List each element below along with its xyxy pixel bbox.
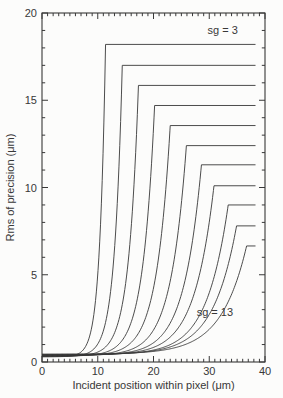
plot-area: 01020304005101520sg = 3sg = 13 [25, 7, 271, 377]
x-axis-title: Incident position within pixel (μm) [72, 379, 234, 391]
curve-sg-12 [42, 226, 256, 355]
curve-sg-6 [42, 105, 256, 356]
x-tick-label: 40 [259, 365, 271, 377]
curve-sg-9 [42, 165, 256, 355]
y-tick-label: 20 [25, 7, 37, 19]
x-tick-label: 10 [92, 365, 104, 377]
y-tick-label: 0 [31, 356, 37, 368]
curve-sg-10 [42, 186, 256, 355]
curve-sg-7 [42, 126, 256, 356]
y-tick-label: 5 [31, 269, 37, 281]
annotation-sg-13: sg = 13 [197, 306, 233, 318]
x-tick-label: 20 [147, 365, 159, 377]
curve-sg-8 [42, 146, 256, 356]
annotation-sg-3: sg = 3 [207, 24, 237, 36]
y-tick-label: 10 [25, 182, 37, 194]
y-axis-title: Rms of precision (μm) [4, 134, 16, 242]
figure: 01020304005101520sg = 3sg = 13 Incident … [0, 0, 283, 398]
curve-sg-13 [42, 246, 256, 354]
y-tick-label: 15 [25, 94, 37, 106]
x-tick-label: 0 [39, 365, 45, 377]
chart: 01020304005101520sg = 3sg = 13 Incident … [0, 0, 283, 398]
x-tick-label: 30 [203, 365, 215, 377]
